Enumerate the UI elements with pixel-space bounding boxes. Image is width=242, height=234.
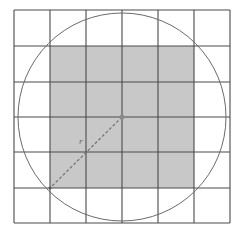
circle-grid-diagram	[0, 0, 242, 234]
radius-label: r	[79, 138, 82, 146]
center-point	[120, 115, 125, 120]
radius-endpoint	[49, 187, 52, 190]
